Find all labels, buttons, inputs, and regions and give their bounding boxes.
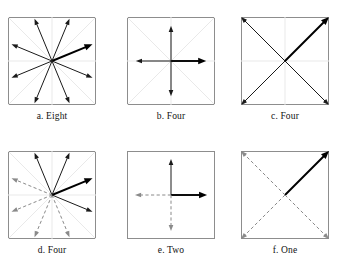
panel-d-square: [8, 151, 96, 239]
panel-a-arrows: [8, 17, 96, 105]
panel-e: e. Two: [119, 151, 223, 256]
panel-c-caption: c. Four: [233, 110, 337, 122]
panel-e-caption: e. Two: [119, 244, 223, 256]
panel-c-arrows: [241, 17, 329, 105]
panel-b-caption: b. Four: [119, 110, 223, 122]
panel-d: d. Four: [0, 151, 104, 256]
panel-c: c. Four: [233, 17, 337, 122]
figure-canvas: a. Eight b. Four c. Four d. Four e. Two …: [0, 0, 345, 268]
panel-e-arrows: [127, 151, 215, 239]
panel-b-arrows: [127, 17, 215, 105]
panel-c-square: [241, 17, 329, 105]
panel-f: f. One: [233, 151, 337, 256]
panel-b-square: [127, 17, 215, 105]
panel-f-square: [241, 151, 329, 239]
panel-d-caption: d. Four: [0, 244, 104, 256]
panel-a-square: [8, 17, 96, 105]
panel-b: b. Four: [119, 17, 223, 122]
panel-f-arrows: [241, 151, 329, 239]
panel-a: a. Eight: [0, 17, 104, 122]
panel-d-arrows: [8, 151, 96, 239]
panel-a-caption: a. Eight: [0, 110, 104, 122]
panel-e-square: [127, 151, 215, 239]
panel-f-caption: f. One: [233, 244, 337, 256]
